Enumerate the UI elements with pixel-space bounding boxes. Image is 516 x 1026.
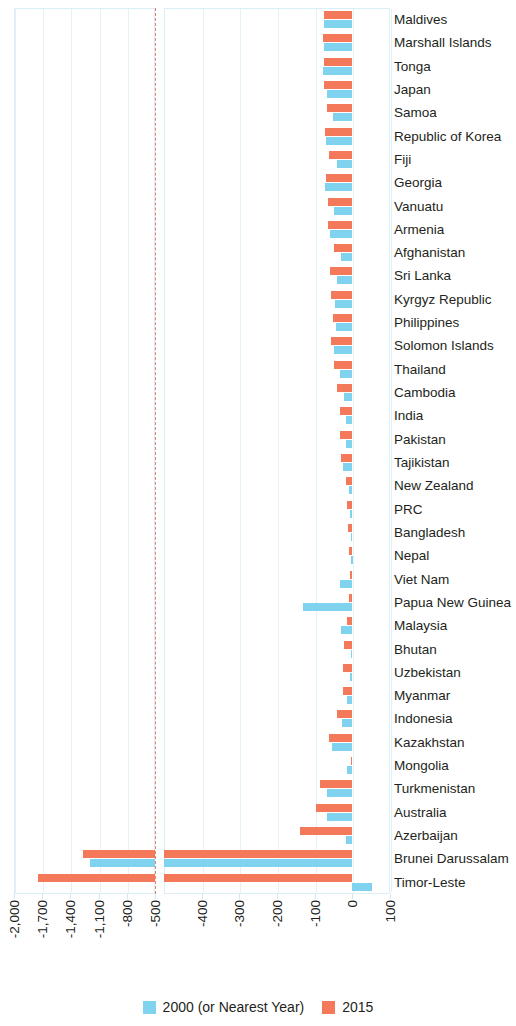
category-label: Nepal — [394, 544, 516, 567]
category-label: Solomon Islands — [394, 334, 516, 357]
axis-tick-label: -2,000 — [7, 900, 22, 938]
bar-row — [14, 591, 390, 614]
bar-2000 — [332, 743, 352, 751]
category-label: Republic of Korea — [394, 125, 516, 148]
bar-row — [14, 754, 390, 777]
bar-2000 — [350, 510, 352, 518]
bar-2000 — [335, 300, 352, 308]
bar-2000 — [346, 416, 353, 424]
bar-2000 — [341, 253, 352, 261]
category-label: Armenia — [394, 218, 516, 241]
category-label: Georgia — [394, 171, 516, 194]
axis-tick-label: 0 — [345, 900, 360, 908]
bar-2000 — [334, 346, 352, 354]
bar-2000 — [303, 603, 352, 611]
axis-tick — [70, 894, 71, 899]
bar-row — [14, 521, 390, 544]
bar-2015 — [349, 547, 353, 555]
bar-row — [14, 195, 390, 218]
bar-row — [14, 78, 390, 101]
bar-2015 — [320, 780, 352, 788]
bar-row — [14, 31, 390, 54]
axis-tick-label: -500 — [148, 900, 163, 927]
bar-2015 — [83, 850, 155, 858]
bar-2015 — [328, 198, 352, 206]
bar-row — [14, 847, 390, 870]
bar-2000 — [164, 859, 352, 867]
category-label: Viet Nam — [394, 568, 516, 591]
category-label: Mongolia — [394, 754, 516, 777]
legend-item-2015: 2015 — [322, 999, 373, 1015]
axis-tick — [42, 894, 43, 899]
bar-row — [14, 474, 390, 497]
bar-2000 — [325, 183, 352, 191]
bar-2015 — [324, 58, 353, 66]
category-label: Vanuatu — [394, 195, 516, 218]
category-label: Timor-Leste — [394, 871, 516, 894]
axis-tick — [277, 894, 278, 899]
legend-swatch-2000-icon — [143, 1001, 156, 1014]
bar-2015 — [333, 314, 353, 322]
bar-2015 — [328, 221, 352, 229]
bar-2000 — [347, 766, 352, 774]
bar-2000 — [334, 207, 353, 215]
bar-rows — [14, 8, 390, 894]
bar-row — [14, 777, 390, 800]
category-label: Japan — [394, 78, 516, 101]
bar-row — [14, 428, 390, 451]
bar-chart: MaldivesMarshall IslandsTongaJapanSamoaR… — [0, 0, 516, 1026]
bar-2000 — [342, 719, 353, 727]
category-label: Bangladesh — [394, 521, 516, 544]
axis-tick-label: -300 — [232, 900, 247, 927]
category-label: Philippines — [394, 311, 516, 334]
bar-2015 — [331, 337, 352, 345]
grid-line — [391, 9, 392, 893]
category-label: Australia — [394, 801, 516, 824]
bar-row — [14, 358, 390, 381]
axis-tick — [99, 894, 100, 899]
bar-row — [14, 241, 390, 264]
bar-row — [14, 661, 390, 684]
legend-label-2000: 2000 (or Nearest Year) — [163, 999, 305, 1015]
axis-tick-label: -1,700 — [35, 900, 50, 938]
bar-row — [14, 707, 390, 730]
bar-2000 — [341, 626, 352, 634]
bar-row — [14, 148, 390, 171]
bar-2000 — [344, 393, 352, 401]
bar-2000 — [324, 43, 353, 51]
bar-2000 — [351, 533, 353, 541]
bar-row — [14, 824, 390, 847]
bar-2000 — [323, 67, 352, 75]
bar-2015 — [351, 757, 353, 765]
category-label: Afghanistan — [394, 241, 516, 264]
bar-row — [14, 171, 390, 194]
bar-2015 — [326, 174, 352, 182]
bar-2000 — [346, 440, 352, 448]
category-label: Tonga — [394, 55, 516, 78]
legend-label-2015: 2015 — [342, 999, 373, 1015]
bar-2000 — [340, 370, 353, 378]
bar-2015 — [344, 641, 352, 649]
category-label: Pakistan — [394, 428, 516, 451]
bar-row — [14, 451, 390, 474]
bar-2015 — [346, 477, 352, 485]
category-label: Indonesia — [394, 707, 516, 730]
category-label: Myanmar — [394, 684, 516, 707]
legend-swatch-2015-icon — [322, 1001, 335, 1014]
bar-row — [14, 731, 390, 754]
bar-2000 — [324, 20, 352, 28]
bar-2000 — [350, 673, 352, 681]
bar-2015 — [334, 361, 352, 369]
bar-2000 — [90, 859, 155, 867]
bar-row — [14, 638, 390, 661]
bar-2000 — [347, 696, 352, 704]
bar-2015 — [331, 291, 352, 299]
bar-2015 — [164, 874, 352, 882]
bar-2000 — [351, 650, 353, 658]
axis-tick — [390, 894, 391, 899]
bar-2015 — [348, 524, 353, 532]
bar-row — [14, 544, 390, 567]
category-label: Sri Lanka — [394, 264, 516, 287]
category-label: Cambodia — [394, 381, 516, 404]
category-label: Marshall Islands — [394, 31, 516, 54]
